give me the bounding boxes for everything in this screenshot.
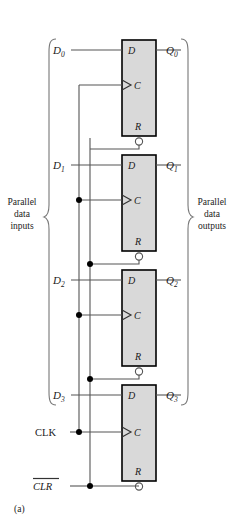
outputs-label-line1: Parallel: [197, 197, 226, 207]
clock-junction-dot: [76, 429, 82, 435]
clock-label: CLK: [35, 427, 56, 438]
pin-label-c-1: C: [134, 195, 141, 206]
input-label-2: D2: [52, 274, 65, 289]
flipflop-stage-0: D C R D0 Q0: [52, 40, 181, 149]
clock-tap-dot-2: [76, 312, 82, 318]
circuit-svg: D C R D0 Q0 D C R D1 Q1 D C R D2 Q2: [0, 0, 234, 526]
input-label-3: D3: [52, 389, 65, 404]
reset-bubble-2: [135, 368, 142, 375]
pin-label-c-3: C: [134, 427, 141, 438]
reset-bubble-1: [135, 253, 142, 260]
outputs-label-line3: outputs: [198, 221, 226, 231]
clear-junction-dot: [87, 483, 93, 489]
pin-label-c-0: C: [134, 80, 141, 91]
pin-label-d-2: D: [127, 275, 136, 286]
output-label-0: Q0: [166, 44, 178, 59]
reset-wire-1: [90, 260, 139, 264]
clock-input-group: CLK: [35, 427, 82, 438]
input-label-0: D0: [52, 44, 65, 59]
pin-label-d-0: D: [127, 45, 136, 56]
right-brace: [181, 39, 193, 405]
pin-label-r-1: R: [134, 236, 141, 247]
outputs-label-line2: data: [204, 209, 221, 219]
input-label-1: D1: [52, 159, 65, 174]
flipflop-stage-2: D C R D2 Q2: [52, 270, 181, 379]
inputs-label-line2: data: [14, 209, 31, 219]
reset-wire-2: [90, 375, 139, 379]
reset-bubble-0: [135, 138, 142, 145]
output-label-1: Q1: [166, 159, 178, 174]
flipflop-stage-1: D C R D1 Q1: [52, 155, 181, 264]
pin-label-d-1: D: [127, 160, 136, 171]
pin-label-c-2: C: [134, 310, 141, 321]
parallel-data-inputs-label: Parallel data inputs: [7, 197, 36, 231]
reset-wire-0: [90, 145, 139, 149]
clear-input-group: CLR: [33, 479, 93, 493]
clear-tap-dot-1: [87, 261, 93, 267]
pin-label-r-3: R: [134, 466, 141, 477]
pin-label-r-0: R: [134, 121, 141, 132]
figure-caption: (a): [14, 504, 25, 515]
inputs-label-line3: inputs: [10, 221, 34, 231]
pin-label-r-2: R: [134, 351, 141, 362]
register-diagram-figure: D C R D0 Q0 D C R D1 Q1 D C R D2 Q2: [0, 0, 234, 526]
clear-label: CLR: [33, 481, 53, 492]
pin-label-d-3: D: [127, 390, 136, 401]
flipflop-stage-3: D C R D3 Q3: [52, 385, 181, 490]
clock-tap-dot-1: [76, 197, 82, 203]
parallel-data-outputs-label: Parallel data outputs: [197, 197, 226, 231]
output-label-3: Q3: [166, 389, 178, 404]
inputs-label-line1: Parallel: [7, 197, 36, 207]
clear-tap-dot-2: [87, 376, 93, 382]
output-label-2: Q2: [166, 274, 178, 289]
left-brace: [44, 39, 56, 405]
